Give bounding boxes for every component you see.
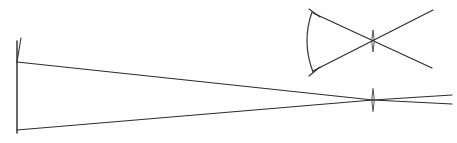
diagram-background	[0, 0, 457, 143]
ray-diagram-svg	[0, 0, 457, 143]
ray-diagram-canvas	[0, 0, 457, 143]
